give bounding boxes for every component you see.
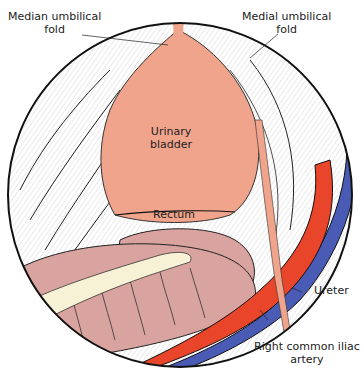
label-line: fold <box>8 23 101 36</box>
label-line: fold <box>242 23 331 36</box>
label-right-common-iliac-artery: Right common iliac artery <box>254 340 360 366</box>
label-rectum: Rectum <box>153 208 195 221</box>
label-medial-umbilical-fold: Medial umbilical fold <box>242 10 331 36</box>
label-line: artery <box>254 353 360 366</box>
label-line: Medial umbilical <box>242 10 331 23</box>
anatomy-illustration <box>0 0 363 373</box>
label-line: bladder <box>150 138 192 151</box>
label-median-umbilical-fold: Median umbilical fold <box>8 10 101 36</box>
label-urinary-bladder: Urinary bladder <box>150 125 192 151</box>
label-line: Median umbilical <box>8 10 101 23</box>
label-ureter: Ureter <box>314 284 349 297</box>
label-line: Urinary <box>150 125 192 138</box>
label-line: Right common iliac <box>254 340 360 353</box>
